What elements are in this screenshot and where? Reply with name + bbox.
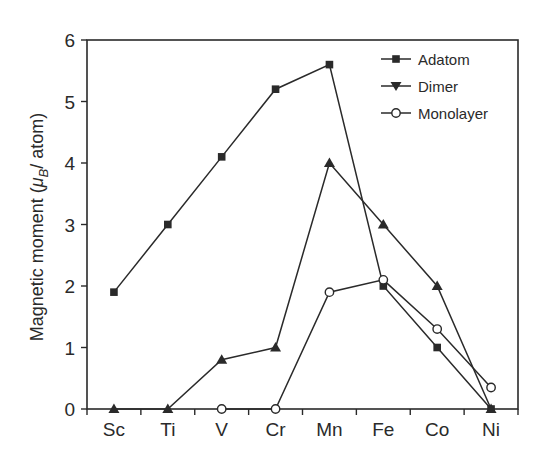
circle-marker: [325, 288, 333, 296]
triangle-marker: [270, 342, 281, 352]
square-marker: [392, 55, 400, 63]
legend: AdatomDimerMonolayer: [381, 51, 488, 122]
magnetic-moment-chart: 0123456 ScTiVCrMnFeCoNi AdatomDimerMonol…: [0, 0, 536, 464]
x-tick-label: Sc: [103, 419, 125, 440]
plot-border: [87, 40, 518, 409]
series-dimer: [108, 158, 496, 414]
x-tick-label: Ti: [160, 419, 175, 440]
circle-marker: [487, 383, 495, 391]
square-marker: [326, 61, 334, 69]
circle-marker: [271, 405, 279, 413]
legend-item-adatom: Adatom: [381, 51, 470, 68]
series-line: [222, 280, 491, 409]
x-tick-label: Co: [425, 419, 449, 440]
y-tick-label: 6: [64, 30, 75, 51]
square-marker: [218, 153, 226, 161]
x-tick-label: Cr: [266, 419, 287, 440]
legend-label: Monolayer: [418, 105, 488, 122]
y-tick-label: 3: [64, 215, 75, 236]
x-axis-ticks: ScTiVCrMnFeCoNi: [87, 409, 518, 440]
y-tick-label: 4: [64, 153, 75, 174]
y-tick-label: 0: [64, 399, 75, 420]
square-marker: [164, 221, 172, 229]
plot-frame: [87, 40, 518, 409]
circle-marker: [392, 109, 400, 117]
y-axis-label: Magnetic moment (μB/ atom): [27, 113, 51, 342]
series-monolayer: [217, 276, 495, 414]
x-tick-label: Ni: [482, 419, 500, 440]
legend-item-monolayer: Monolayer: [381, 105, 488, 122]
circle-marker: [217, 405, 225, 413]
square-marker: [433, 344, 441, 352]
x-tick-label: Fe: [372, 419, 394, 440]
circle-marker: [433, 325, 441, 333]
legend-label: Adatom: [418, 51, 470, 68]
x-tick-label: Mn: [316, 419, 342, 440]
legend-item-dimer: Dimer: [381, 78, 458, 95]
y-tick-label: 5: [64, 92, 75, 113]
y-tick-label: 1: [64, 338, 75, 359]
square-marker: [272, 85, 280, 93]
square-marker: [110, 288, 118, 296]
y-tick-label: 2: [64, 276, 75, 297]
triangle-marker: [324, 158, 335, 168]
circle-marker: [379, 276, 387, 284]
x-tick-label: V: [215, 419, 228, 440]
y-axis-ticks: 0123456: [64, 30, 87, 420]
legend-label: Dimer: [418, 78, 458, 95]
